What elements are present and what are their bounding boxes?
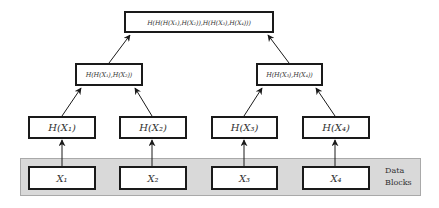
merkle-tree-diagram: Data Blocks H(H(H(X₁),H(X₂)),H(H(X₃),H(X… (0, 0, 439, 208)
edge-hx4-h34 (316, 88, 335, 116)
data-block-x3-label: X₃ (239, 173, 250, 184)
hash-node-hx3-label: H(X₃) (231, 122, 259, 133)
hash-node-hx1-label: H(X₁) (48, 122, 76, 133)
edge-hx3-h34 (244, 88, 262, 116)
root-hash-label: H(H(H(X₁),H(X₂)),H(H(X₃),H(X₄))) (147, 19, 251, 26)
root-hash-node: H(H(H(X₁),H(X₂)),H(H(X₃),H(X₄))) (124, 11, 274, 33)
data-block-x1-label: X₁ (56, 173, 67, 184)
data-block-x4: X₄ (302, 166, 370, 190)
hash-node-hx4: H(X₄) (302, 116, 370, 139)
hash-node-h12: H(H(X₁),H(X₂)) (75, 63, 143, 86)
hash-node-hx2-label: H(X₂) (139, 122, 167, 133)
hash-node-hx4-label: H(X₄) (322, 122, 350, 133)
edge-h34-root (268, 35, 289, 63)
data-block-x2: X₂ (119, 166, 187, 190)
data-block-x4-label: X₄ (330, 173, 341, 184)
data-block-x2-label: X₂ (147, 173, 158, 184)
hash-node-hx1: H(X₁) (28, 116, 96, 139)
edge-hx1-h12 (62, 88, 81, 116)
hash-node-h12-label: H(H(X₁),H(X₂)) (86, 71, 133, 79)
hash-node-hx3: H(X₃) (211, 116, 278, 139)
hash-node-hx2: H(X₂) (119, 116, 187, 139)
hash-node-h34: H(H(X₃),H(X₄)) (256, 63, 323, 86)
data-block-x1: X₁ (28, 166, 96, 190)
data-block-x3: X₃ (211, 166, 278, 190)
edge-hx2-h12 (135, 88, 152, 116)
edge-h12-root (109, 35, 130, 63)
hash-node-h34-label: H(H(X₃),H(X₄)) (266, 71, 313, 79)
